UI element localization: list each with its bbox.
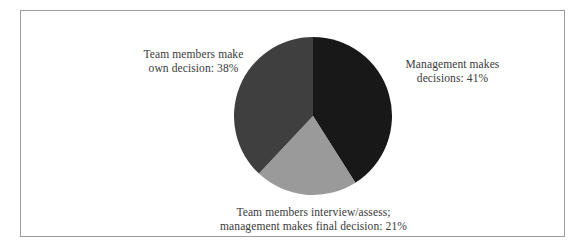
pie-label-line-2: decisions: 41% bbox=[390, 71, 515, 85]
pie-label-team-members-own-decision: Team members make own decision: 38% bbox=[131, 47, 256, 75]
pie-label-line-2: own decision: 38% bbox=[131, 61, 256, 75]
chart-figure: Team members make own decision: 38% Mana… bbox=[0, 0, 587, 251]
pie-label-management-makes-decisions: Management makes decisions: 41% bbox=[390, 57, 515, 85]
pie-label-line-1: Team members make bbox=[131, 47, 256, 61]
figure-border-frame: Team members make own decision: 38% Mana… bbox=[20, 10, 565, 237]
pie-svg bbox=[234, 37, 392, 195]
pie-label-line-1: Team members interview/assess; bbox=[211, 205, 416, 219]
pie-chart-graphic bbox=[234, 37, 392, 195]
pie-label-line-1: Management makes bbox=[390, 57, 515, 71]
pie-label-team-members-interview-assess: Team members interview/assess; managemen… bbox=[211, 205, 416, 233]
pie-label-line-2: management makes final decision: 21% bbox=[211, 219, 416, 233]
